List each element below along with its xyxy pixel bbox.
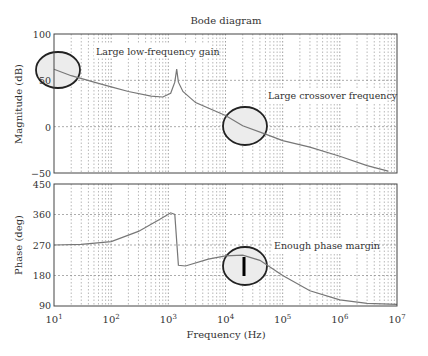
svg-text:107: 107 (388, 313, 405, 325)
svg-text:450: 450 (33, 179, 51, 190)
magnitude-y-ticks: 100 50 0 −50 (31, 29, 51, 179)
annotation-crossover: Large crossover frequency (268, 90, 398, 101)
bode-diagram: Bode diagram Large low-frequency gain La… (0, 0, 428, 356)
svg-text:180: 180 (33, 270, 51, 281)
frequency-x-ticks: 101102103104105106107 (45, 313, 405, 325)
phase-y-ticks: 450 360 270 180 90 (33, 179, 51, 311)
phase-axis-label: Phase (deg) (13, 215, 24, 275)
magnitude-axis-label: Magnitude (dB) (13, 64, 24, 144)
annotation-low-freq-gain: Large low-frequency gain (96, 46, 220, 57)
svg-text:90: 90 (39, 300, 51, 311)
svg-text:102: 102 (103, 313, 120, 325)
svg-text:−50: −50 (31, 168, 51, 179)
chart-title: Bode diagram (190, 15, 262, 26)
svg-text:50: 50 (39, 75, 51, 86)
svg-text:270: 270 (33, 240, 51, 251)
svg-text:360: 360 (33, 209, 51, 220)
frequency-axis-label: Frequency (Hz) (186, 329, 265, 340)
svg-text:106: 106 (331, 313, 349, 325)
svg-text:105: 105 (274, 313, 291, 325)
svg-text:103: 103 (160, 313, 177, 325)
svg-text:100: 100 (33, 29, 51, 40)
svg-text:0: 0 (45, 122, 51, 133)
annotation-phase-margin: Enough phase margin (274, 240, 380, 251)
svg-text:101: 101 (45, 313, 62, 325)
magnitude-curve (54, 69, 388, 171)
svg-text:104: 104 (217, 313, 235, 325)
